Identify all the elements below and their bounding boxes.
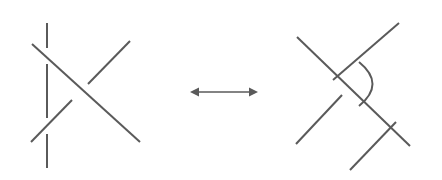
- arrow-head-left: [190, 88, 199, 97]
- ascending-diagonal-upper-segment: [88, 41, 130, 84]
- descending-diagonal-strand: [297, 37, 410, 146]
- arrow-head-right: [249, 88, 258, 97]
- lower-ascending-strand-left: [296, 95, 342, 144]
- right-tangle-diagram: [296, 23, 410, 170]
- lower-ascending-strand-right: [350, 122, 396, 170]
- equivalence-arrow: [190, 88, 258, 97]
- descending-diagonal-strand: [32, 44, 140, 142]
- left-tangle-diagram: [31, 23, 140, 168]
- ascending-diagonal-lower-segment: [31, 100, 72, 142]
- knot-equivalence-figure: [0, 0, 442, 180]
- upper-ascending-strand: [333, 23, 399, 80]
- figure-canvas: [0, 0, 442, 180]
